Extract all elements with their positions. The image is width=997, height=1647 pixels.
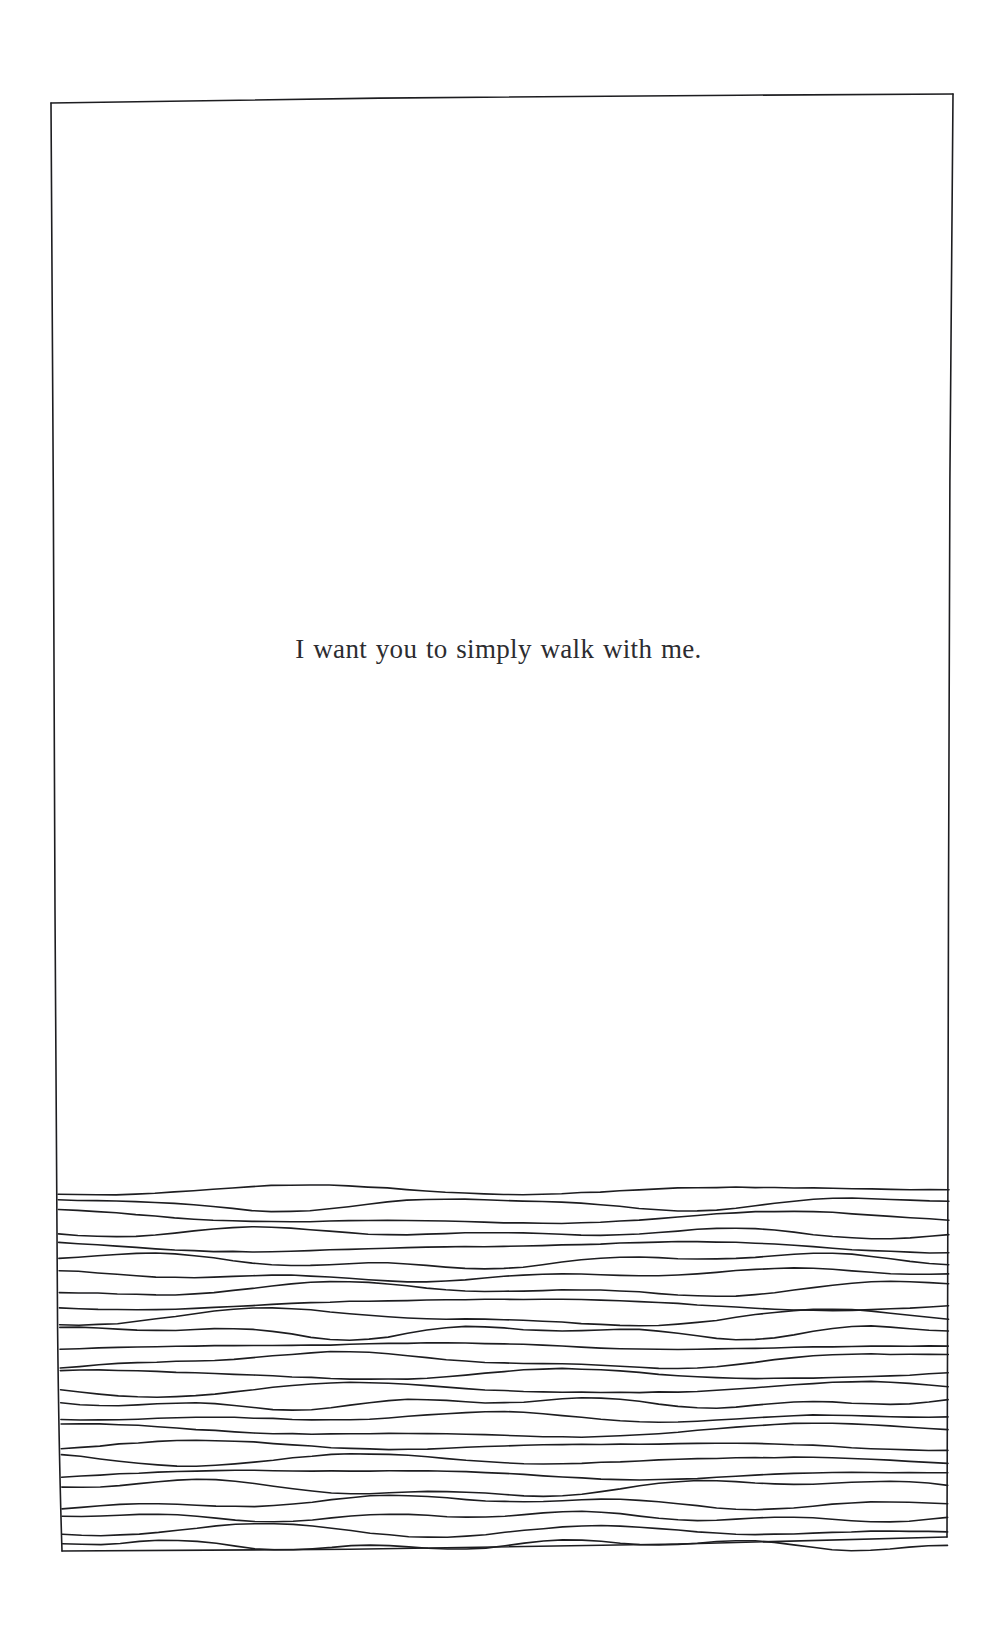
illustration-page: I want you to simply walk with me. — [0, 0, 997, 1647]
illustration-artwork — [0, 0, 997, 1647]
page-background — [0, 0, 997, 1647]
